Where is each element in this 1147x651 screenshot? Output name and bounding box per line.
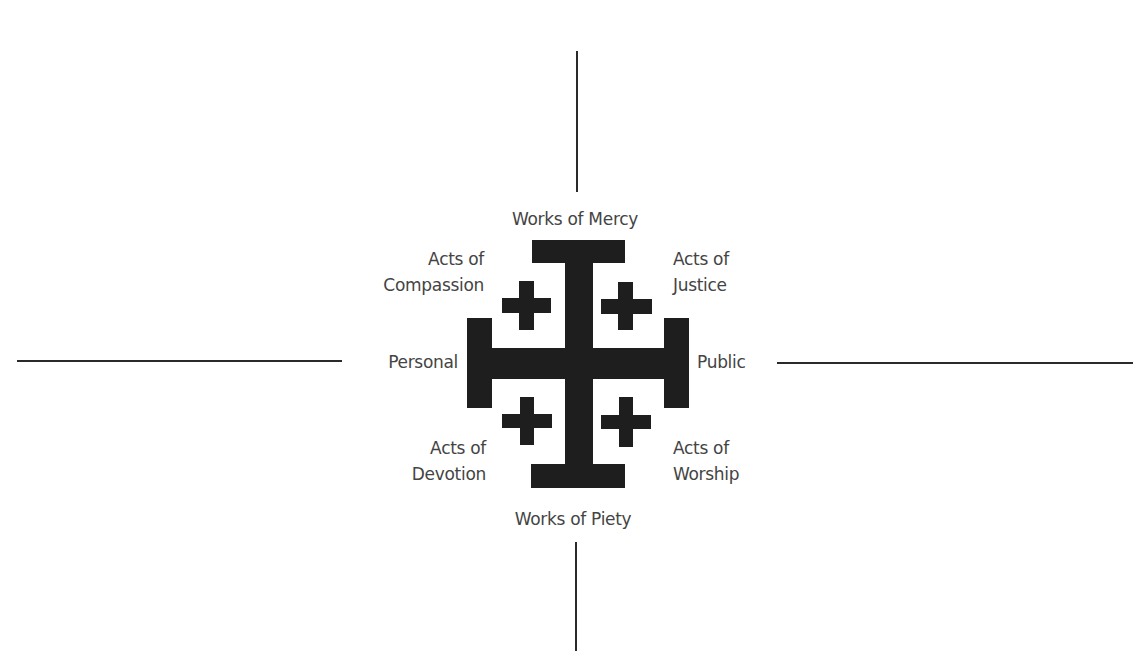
axis-line-left (17, 360, 342, 362)
label-acts-of-devotion-line1: Acts of (340, 435, 486, 461)
label-acts-of-compassion-line1: Acts of (340, 246, 484, 272)
cross-bottom-bar (531, 464, 625, 488)
axis-line-bottom (575, 542, 577, 651)
label-personal-text: Personal (350, 349, 458, 375)
label-acts-of-devotion: Acts of Devotion (340, 435, 486, 487)
label-works-of-piety-text: Works of Piety (490, 506, 656, 532)
label-works-of-mercy: Works of Mercy (490, 206, 660, 232)
axis-line-top (576, 51, 578, 192)
label-acts-of-worship-line2: Worship (673, 461, 793, 487)
small-cross-bottom-left-horizontal (502, 414, 552, 428)
label-works-of-piety: Works of Piety (490, 506, 656, 532)
label-works-of-mercy-text: Works of Mercy (490, 206, 660, 232)
cut-off-caption (0, 0, 1147, 6)
small-cross-bottom-right-horizontal (601, 415, 651, 429)
cross-horizontal-bar (467, 348, 689, 379)
small-cross-top-right-horizontal (601, 299, 652, 314)
label-public: Public (697, 349, 777, 375)
label-acts-of-worship: Acts of Worship (673, 435, 793, 487)
cross-right-bar (664, 318, 689, 408)
label-acts-of-justice: Acts of Justice (673, 246, 793, 298)
label-acts-of-devotion-line2: Devotion (340, 461, 486, 487)
cross-left-bar (467, 318, 492, 408)
label-public-text: Public (697, 349, 777, 375)
label-acts-of-justice-line1: Acts of (673, 246, 793, 272)
label-acts-of-compassion: Acts of Compassion (340, 246, 484, 298)
small-cross-top-left-horizontal (502, 298, 551, 313)
axis-line-right (777, 362, 1133, 364)
label-acts-of-worship-line1: Acts of (673, 435, 793, 461)
label-acts-of-justice-line2: Justice (673, 272, 793, 298)
label-acts-of-compassion-line2: Compassion (340, 272, 484, 298)
label-personal: Personal (350, 349, 458, 375)
